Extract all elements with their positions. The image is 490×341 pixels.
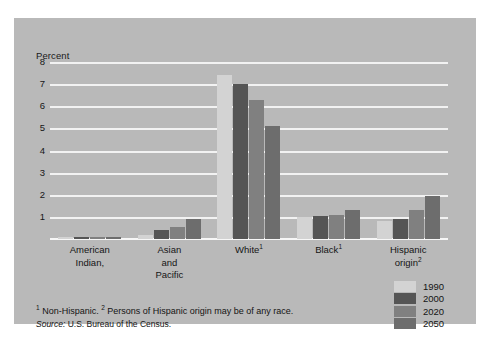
legend-label: 2000	[423, 294, 444, 304]
legend-label: 2050	[423, 319, 444, 329]
y-tick-label-7: 7	[40, 79, 45, 89]
footnote-marker: 2	[418, 255, 422, 262]
y-tick-label-6: 6	[40, 102, 45, 112]
legend-item[interactable]: 2000	[394, 293, 464, 306]
bar-2050[interactable]	[345, 210, 360, 239]
bar-2000[interactable]	[313, 216, 328, 239]
bar-groups	[50, 62, 448, 239]
bar-2020[interactable]	[249, 100, 264, 239]
legend-swatch	[394, 281, 416, 292]
bar-1990[interactable]	[377, 221, 392, 239]
bar-1990[interactable]	[297, 217, 312, 239]
bar-2020[interactable]	[170, 227, 185, 239]
legend-swatch	[394, 293, 416, 304]
footnote: 1 Non-Hispanic. 2 Persons of Hispanic or…	[36, 305, 376, 317]
category-labels: AmericanIndian,AsianandPacificWhite1Blac…	[50, 244, 448, 282]
bar-2020[interactable]	[329, 215, 344, 239]
category-label-line: American	[50, 244, 130, 257]
category-label-line: Black1	[289, 244, 369, 257]
category-label-line: and	[130, 257, 210, 270]
legend-item[interactable]: 2050	[394, 318, 464, 331]
legend-swatch	[394, 306, 416, 317]
bar-group	[368, 62, 448, 239]
bar-1990[interactable]	[138, 235, 153, 239]
category-label-line: Indian,	[50, 257, 130, 270]
category-label: Black1	[289, 244, 369, 282]
category-label: Hispanicorigin2	[368, 244, 448, 282]
bar-2050[interactable]	[425, 196, 440, 239]
bar-2050[interactable]	[265, 126, 280, 239]
bar-1990[interactable]	[217, 75, 232, 239]
category-label-line: origin2	[368, 257, 448, 270]
legend-label: 2020	[423, 307, 444, 317]
category-label-line: White1	[209, 244, 289, 257]
category-label-line: Pacific	[130, 269, 210, 282]
legend-item[interactable]: 2020	[394, 305, 464, 318]
bar-1990[interactable]	[58, 237, 73, 239]
bar-2000[interactable]	[154, 230, 169, 239]
category-label: AmericanIndian,	[50, 244, 130, 282]
legend-item[interactable]: 1990	[394, 280, 464, 293]
y-tick-label-3: 3	[40, 168, 45, 178]
footnote-marker-1: 1	[36, 304, 40, 311]
y-tick-label-8: 8	[40, 57, 45, 67]
source-line: Source: U.S. Bureau of the Census.	[36, 318, 376, 330]
y-tick-label-4: 4	[40, 146, 45, 156]
source-label: Source:	[36, 319, 65, 329]
category-label: White1	[209, 244, 289, 282]
bar-group	[209, 62, 289, 239]
bar-group	[50, 62, 130, 239]
footnote-marker-2: 2	[101, 304, 105, 311]
y-tick-label-2: 2	[40, 190, 45, 200]
category-label-line: Hispanic	[368, 244, 448, 257]
legend-label: 1990	[423, 282, 444, 292]
bar-2050[interactable]	[186, 219, 201, 239]
category-label: AsianandPacific	[130, 244, 210, 282]
legend-swatch	[394, 318, 416, 329]
chart-figure: Percent 12345678 AmericanIndian,Asianand…	[14, 18, 476, 324]
y-tick-label-5: 5	[40, 124, 45, 134]
plot-area: 12345678	[50, 62, 448, 239]
footnote-marker: 1	[259, 243, 263, 250]
notes-block: 1 Non-Hispanic. 2 Persons of Hispanic or…	[36, 305, 376, 330]
bar-2000[interactable]	[74, 237, 89, 239]
footnote-marker: 1	[338, 243, 342, 250]
bar-group	[289, 62, 369, 239]
bar-2000[interactable]	[393, 219, 408, 239]
chart-legend: 1990200020202050	[394, 280, 464, 330]
category-label-line: Asian	[130, 244, 210, 257]
bar-group	[130, 62, 210, 239]
bar-2020[interactable]	[409, 210, 424, 239]
bar-2000[interactable]	[233, 84, 248, 239]
y-tick-label-1: 1	[40, 212, 45, 222]
bar-2020[interactable]	[90, 237, 105, 239]
bar-2050[interactable]	[106, 237, 121, 239]
